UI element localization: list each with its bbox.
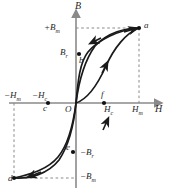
b-max-positive-label: +Bm [44,23,60,34]
b-max-positive-text: +B [44,22,56,32]
origin-label: O [65,105,72,114]
point-label-f: f [101,90,104,99]
h-max-positive-subscript: m [139,110,143,116]
h-max-negative-text: −H [4,90,17,100]
point-label-d: d [8,174,13,183]
h-max-positive-label: Hm [132,105,143,116]
point-label-b: b [79,56,84,65]
h-coercivity-negative-subscript: c [45,96,48,102]
h-coercivity-negative-label: −Hc [32,91,47,102]
point-label-a: a [144,21,149,30]
b-remanence-positive-label: Br [60,48,68,59]
h-coercivity-positive-subscript: c [111,110,114,116]
point-label-e: e [66,143,70,152]
point-label-c: c [43,104,47,113]
h-max-negative-label: −Hm [4,91,21,102]
h-coercivity-negative-text: −H [32,90,45,100]
y-axis-label: B [75,1,81,11]
b-max-positive-subscript: m [56,28,60,34]
h-coercivity-positive-label: Hc [104,105,113,116]
x-axis-label: H [155,104,162,114]
b-max-negative-text: −B [80,171,92,181]
direction-arrow-ascending-lower [103,121,107,130]
point-marker-a [137,26,141,30]
b-max-negative-label: −Bm [80,172,96,183]
b-remanence-negative-text: −B [80,147,92,157]
b-remanence-positive-subscript: r [66,53,68,59]
hysteresis-loop-figure: B H O +Bm Br −Br −Bm −Hm −Hc Hc Hm a b c… [0,0,169,193]
b-remanence-negative-label: −Br [80,148,94,159]
b-remanence-negative-subscript: r [92,153,94,159]
h-max-negative-subscript: m [17,96,21,102]
b-max-negative-subscript: m [92,177,96,183]
point-marker-e [71,150,75,154]
